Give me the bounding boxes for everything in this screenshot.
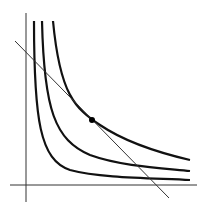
tangency-point [89,117,95,123]
indifference-curve-2 [42,21,190,171]
indifference-curve-1 [34,21,190,180]
indifference-curve-diagram [0,0,207,212]
indifference-curve-3 [53,21,190,160]
